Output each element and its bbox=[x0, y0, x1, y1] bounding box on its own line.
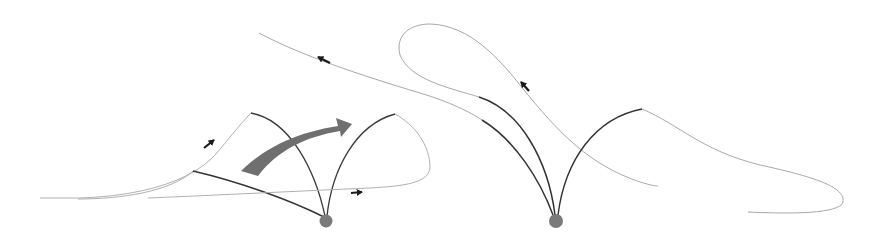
right-loop-trajectory bbox=[399, 24, 658, 186]
left-outer-trajectory bbox=[40, 113, 251, 198]
left-direction-arrow-right bbox=[351, 192, 362, 193]
left-pivot-dot bbox=[320, 215, 333, 228]
right-return-loop bbox=[642, 109, 843, 213]
right-long-trajectory bbox=[259, 33, 482, 120]
right-filament-c bbox=[558, 109, 642, 215]
right-filament-b bbox=[479, 97, 555, 215]
left-return-loop bbox=[148, 114, 430, 198]
right-filament-a bbox=[482, 120, 553, 215]
right-pivot-dot bbox=[549, 214, 563, 228]
left-panel bbox=[40, 113, 430, 228]
left-inner-trajectory bbox=[78, 171, 193, 199]
diagram-canvas bbox=[0, 0, 881, 241]
diagram-svg bbox=[0, 0, 881, 241]
left-direction-arrow-up bbox=[204, 140, 214, 148]
left-filament-b bbox=[193, 171, 324, 217]
right-direction-arrow-up bbox=[521, 82, 529, 91]
